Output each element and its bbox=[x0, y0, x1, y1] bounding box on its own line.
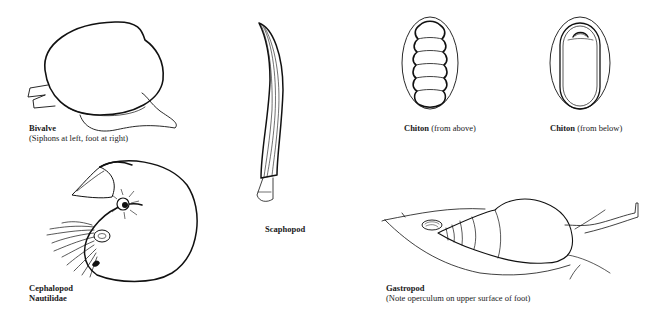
cephalopod-illustration bbox=[22, 155, 202, 280]
gastropod-illustration bbox=[380, 195, 640, 280]
gastropod-caption: (Note operculum on upper surface of foot… bbox=[386, 294, 530, 304]
cephalopod-label: Cephalopod Nautilidae bbox=[29, 284, 73, 303]
gastropod-label: Gastropod (Note operculum on upper surfa… bbox=[386, 284, 530, 303]
scaphopod-illustration bbox=[255, 20, 305, 210]
bivalve-label: Bivalve (Siphons at left, foot at right) bbox=[29, 124, 128, 143]
bivalve-caption: (Siphons at left, foot at right) bbox=[29, 134, 128, 144]
chiton-below-caption: (from below) bbox=[575, 123, 622, 133]
scaphopod-label: Scaphopod bbox=[265, 225, 305, 235]
chiton-above-illustration bbox=[400, 15, 460, 115]
scaphopod-name: Scaphopod bbox=[265, 225, 305, 235]
chiton-below-label: Chiton (from below) bbox=[550, 124, 622, 134]
chiton-above-label: Chiton (from above) bbox=[404, 124, 476, 134]
bivalve-illustration bbox=[20, 15, 180, 125]
cephalopod-caption: Nautilidae bbox=[29, 294, 73, 304]
chiton-below-illustration bbox=[548, 15, 612, 115]
chiton-above-caption: (from above) bbox=[429, 123, 476, 133]
chiton-above-name: Chiton bbox=[404, 123, 429, 133]
chiton-below-name: Chiton bbox=[550, 123, 575, 133]
